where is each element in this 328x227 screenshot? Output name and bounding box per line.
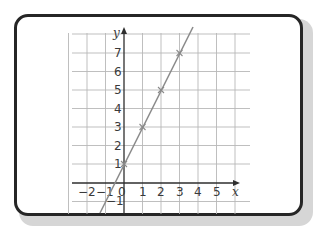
x-tick-0: 0 — [118, 185, 126, 199]
chart-plot: y x 7 6 5 4 3 2 1 −1 −2 −1 0 1 2 3 4 5 — [0, 0, 328, 227]
y-tick-1: 1 — [114, 157, 122, 171]
x-tick-1: 1 — [139, 185, 147, 199]
x-tick-5: 5 — [213, 185, 221, 199]
y-axis-arrow-icon — [121, 27, 127, 34]
y-tick-7: 7 — [114, 46, 122, 60]
x-tick-labels: −2 −1 0 1 2 3 4 5 — [78, 185, 221, 199]
y-tick-6: 6 — [114, 65, 122, 79]
y-tick-5: 5 — [114, 83, 122, 97]
x-tick-2: 2 — [157, 185, 165, 199]
y-tick-2: 2 — [114, 139, 122, 153]
x-tick-minus-2: −2 — [78, 185, 96, 199]
y-tick-4: 4 — [114, 102, 122, 116]
y-tick-3: 3 — [114, 120, 122, 134]
x-axis-label: x — [232, 185, 239, 199]
y-axis-label: y — [112, 26, 120, 40]
x-tick-3: 3 — [176, 185, 184, 199]
x-tick-4: 4 — [194, 185, 202, 199]
